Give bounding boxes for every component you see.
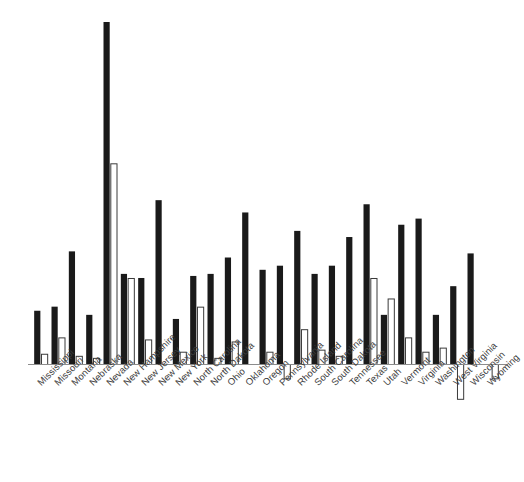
- bar-light: [128, 278, 134, 364]
- bar-light: [388, 299, 394, 365]
- bar-dark: [69, 251, 75, 364]
- bar-dark: [34, 311, 40, 364]
- bar-dark: [121, 274, 127, 364]
- bar-dark: [208, 274, 214, 364]
- bar-dark: [260, 270, 266, 364]
- bars-svg: [0, 0, 524, 482]
- bar-dark: [294, 231, 300, 364]
- bar-dark: [450, 286, 456, 364]
- bar-dark: [52, 307, 58, 364]
- plot-area: [0, 0, 524, 482]
- bar-dark: [104, 22, 110, 364]
- bar-dark: [277, 266, 283, 364]
- bar-light: [405, 338, 411, 365]
- bar-light: [111, 164, 117, 365]
- bar-chart: MississippiMissouriMontanaNebraskaNevada…: [0, 0, 524, 482]
- bar-dark: [398, 225, 404, 364]
- bar-dark: [138, 278, 144, 364]
- bar-dark: [416, 219, 422, 364]
- bar-light: [41, 354, 47, 364]
